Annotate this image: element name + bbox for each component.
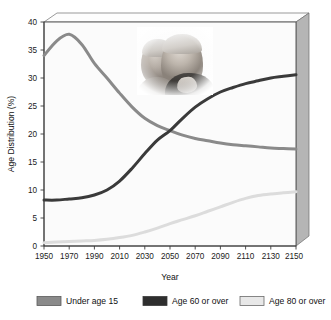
x-tick-1970: 1970 xyxy=(60,246,79,261)
x-tick-2110: 2110 xyxy=(237,246,255,261)
y-tick-30: 30 xyxy=(28,74,44,83)
x-tick-label: 1950 xyxy=(35,252,54,261)
y-tick-label: 40 xyxy=(28,18,38,27)
x-tick-2130: 2130 xyxy=(262,246,281,261)
legend-swatch xyxy=(240,297,264,306)
x-tick-label: 2110 xyxy=(237,252,255,261)
frame-right-face xyxy=(296,13,309,246)
x-tick-2010: 2010 xyxy=(110,246,129,261)
x-tick-label: 2130 xyxy=(262,252,281,261)
x-tick-label: 2010 xyxy=(110,252,129,261)
y-tick-label: 30 xyxy=(28,74,38,83)
y-tick-label: 0 xyxy=(32,242,37,251)
y-tick-label: 20 xyxy=(28,130,38,139)
x-tick-1950: 1950 xyxy=(35,246,54,261)
y-tick-35: 35 xyxy=(28,46,44,55)
y-axis-title: Age Distribution (%) xyxy=(6,96,16,173)
y-tick-label: 25 xyxy=(28,102,38,111)
chart-figure: 0 5 10 15 20 25 30 35 40 Age Distributio… xyxy=(0,0,331,320)
x-tick-label: 2070 xyxy=(186,252,205,261)
y-tick-10: 10 xyxy=(28,186,44,195)
x-axis: 1950 1970 1990 2010 2030 2050 2070 2090 … xyxy=(35,246,304,282)
x-tick-2030: 2030 xyxy=(136,246,155,261)
legend-label: Age 60 or over xyxy=(172,296,229,306)
x-tick-label: 1970 xyxy=(60,252,79,261)
x-tick-label: 2050 xyxy=(161,252,180,261)
y-tick-40: 40 xyxy=(28,18,44,27)
x-tick-label: 2150 xyxy=(285,252,304,261)
legend-label: Age 80 or over xyxy=(269,296,326,306)
x-axis-title: Year xyxy=(161,272,179,282)
x-tick-2070: 2070 xyxy=(186,246,205,261)
y-tick-label: 35 xyxy=(28,46,38,55)
y-tick-5: 5 xyxy=(32,214,44,223)
x-tick-label: 2030 xyxy=(136,252,155,261)
legend-item-age-80-or-over: Age 80 or over xyxy=(240,296,326,306)
y-tick-label: 15 xyxy=(28,158,38,167)
y-tick-label: 10 xyxy=(28,186,38,195)
legend-item-age-60-or-over: Age 60 or over xyxy=(143,296,229,306)
x-tick-label: 1990 xyxy=(85,252,104,261)
x-tick-2050: 2050 xyxy=(161,246,180,261)
line-chart: 0 5 10 15 20 25 30 35 40 Age Distributio… xyxy=(0,0,331,320)
x-tick-1990: 1990 xyxy=(85,246,104,261)
y-tick-0: 0 xyxy=(32,242,44,251)
chart-legend: Under age 15 Age 60 or over Age 80 or ov… xyxy=(0,292,331,314)
x-tick-2090: 2090 xyxy=(211,246,230,261)
legend-swatch xyxy=(37,297,61,306)
x-tick-2150: 2150 xyxy=(285,246,304,261)
x-tick-label: 2090 xyxy=(211,252,230,261)
legend-item-under-age-15: Under age 15 xyxy=(37,296,118,306)
y-tick-15: 15 xyxy=(28,158,44,167)
y-tick-20: 20 xyxy=(28,130,44,139)
legend-label: Under age 15 xyxy=(66,296,118,306)
y-tick-25: 25 xyxy=(28,102,44,111)
y-tick-label: 5 xyxy=(32,214,37,223)
legend-swatch xyxy=(143,297,167,306)
frame-top-face xyxy=(44,13,309,22)
y-axis: 0 5 10 15 20 25 30 35 40 Age Distributio… xyxy=(6,18,44,251)
plot-background xyxy=(44,22,296,246)
